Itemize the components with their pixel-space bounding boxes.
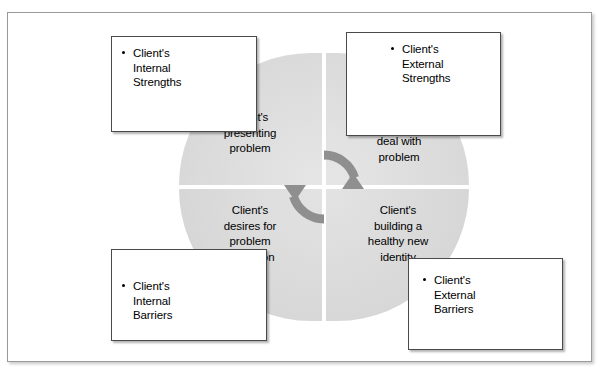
bullet-row: Client's External Barriers xyxy=(423,273,556,317)
quadrant-label-bottom-right: Client's building a healthy new identity xyxy=(339,203,457,265)
callout-box-external-barriers[interactable]: Client's External Barriers xyxy=(408,258,563,350)
bullet-row: Client's Internal Barriers xyxy=(122,279,260,323)
bullet-icon xyxy=(122,46,133,54)
bullet-icon xyxy=(391,42,402,50)
page-frame-inner: Client's presenting problem Client's eff… xyxy=(8,13,591,361)
callout-box-external-strengths[interactable]: Client's External Strengths xyxy=(346,32,501,136)
callout-body: Client's Internal Barriers xyxy=(112,250,266,329)
callout-box-internal-barriers[interactable]: Client's Internal Barriers xyxy=(111,249,267,341)
bullet-icon xyxy=(122,279,133,287)
screenshot-root: Client's presenting problem Client's eff… xyxy=(0,0,603,371)
callout-body: Client's External Barriers xyxy=(409,259,562,323)
quadrant-cycle-diagram: Client's presenting problem Client's eff… xyxy=(8,13,593,363)
callout-label-internal-strengths: Client's Internal Strengths xyxy=(133,46,181,90)
callout-label-external-barriers: Client's External Barriers xyxy=(434,273,475,317)
callout-label-internal-barriers: Client's Internal Barriers xyxy=(133,279,172,323)
bullet-icon xyxy=(423,273,434,281)
page-frame: Client's presenting problem Client's eff… xyxy=(7,12,592,362)
callout-body: Client's External Strengths xyxy=(347,33,500,92)
bullet-row: Client's External Strengths xyxy=(391,42,494,86)
callout-box-internal-strengths[interactable]: Client's Internal Strengths xyxy=(111,36,257,132)
callout-body: Client's Internal Strengths xyxy=(112,37,256,96)
callout-label-external-strengths: Client's External Strengths xyxy=(402,42,450,86)
bullet-row: Client's Internal Strengths xyxy=(122,46,250,90)
